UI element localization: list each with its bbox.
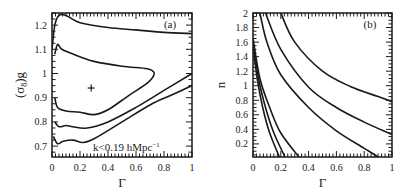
- x-tick-label: 1: [390, 162, 395, 173]
- ticks: [52, 13, 192, 157]
- y-tick-label: 0.2: [236, 138, 249, 149]
- y-tick-label: 1.6: [236, 37, 249, 48]
- contour-lines: [52, 14, 192, 144]
- contour-inner-1sigma: [55, 44, 154, 114]
- contour-lines: [253, 13, 392, 157]
- x-tick-label: 0.6: [330, 162, 343, 173]
- y-tick-label: 0.8: [35, 116, 48, 127]
- y-tick-label: 0.7: [35, 141, 48, 152]
- panel-a: 00.20.40.60.810.70.80.911.11.2(a)k<0.19 …: [12, 13, 195, 190]
- y-tick-label: 1.2: [35, 20, 48, 31]
- y-tick-label: 1.2: [236, 66, 249, 77]
- plot-frame: [52, 13, 192, 157]
- best-fit-marker: [88, 85, 95, 92]
- contour-5: [266, 13, 393, 135]
- x-tick-label: 0: [251, 162, 256, 173]
- x-axis-label: Γ: [118, 175, 126, 190]
- x-tick-label: 0.8: [358, 162, 371, 173]
- x-tick-label: 0.2: [275, 162, 288, 173]
- y-axis-label: (σ8)g: [12, 71, 29, 98]
- x-tick-label: 0.6: [130, 162, 143, 173]
- x-axis-label: Γ: [319, 175, 327, 190]
- figure: 00.20.40.60.810.70.80.911.11.2(a)k<0.19 …: [0, 0, 410, 193]
- x-tick-label: 1: [190, 162, 195, 173]
- y-tick-label: 1: [42, 68, 47, 79]
- y-tick-label: 0.6: [236, 109, 249, 120]
- y-tick-label: 0.9: [35, 92, 48, 103]
- contour-middle-2sigma-lower: [55, 74, 192, 129]
- x-tick-label: 0.4: [302, 162, 315, 173]
- y-tick-label: 1.8: [236, 22, 249, 33]
- x-tick-label: 0: [50, 162, 55, 173]
- contour-4: [260, 13, 378, 157]
- x-tick-label: 0.8: [158, 162, 171, 173]
- y-tick-label: 0.4: [236, 124, 249, 135]
- panel-b: 00.20.40.60.810.20.40.60.811.21.41.61.82…: [213, 8, 395, 191]
- panel-label-b: (b): [364, 18, 377, 31]
- panel-label-a: (a): [164, 18, 177, 31]
- x-tick-label: 0.4: [102, 162, 115, 173]
- y-tick-label: 1: [243, 80, 248, 91]
- y-axis-label: n: [213, 81, 228, 88]
- y-tick-label: 0.8: [236, 95, 249, 106]
- y-tick-label: 1.4: [236, 51, 249, 62]
- y-tick-label: 1.1: [35, 44, 48, 55]
- contour-2: [253, 42, 285, 157]
- scale-annotation: k<0.19 hMpc−1: [93, 141, 160, 153]
- x-tick-label: 0.2: [74, 162, 87, 173]
- y-tick-label: 2: [243, 8, 248, 19]
